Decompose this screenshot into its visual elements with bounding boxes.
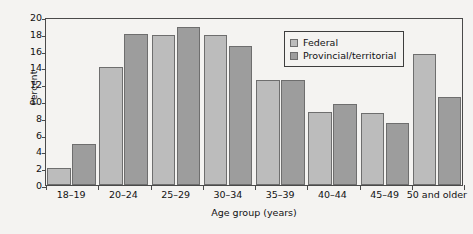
bar-provincial <box>333 104 357 185</box>
legend-swatch-provincial-icon <box>290 52 298 60</box>
bar-provincial <box>281 80 305 185</box>
plot-area: Federal Provincial/territorial <box>45 18 463 186</box>
y-axis-tick-label: 20 <box>20 13 42 23</box>
bar-group <box>151 19 203 185</box>
bar-provincial <box>438 97 462 185</box>
bar-group <box>412 19 464 185</box>
legend-label-provincial: Provincial/territorial <box>303 51 396 61</box>
bar-provincial <box>229 46 253 185</box>
bar-group <box>203 19 255 185</box>
legend-swatch-federal-icon <box>290 39 298 47</box>
y-axis-tick-mark <box>42 69 47 70</box>
bar-federal <box>152 35 176 185</box>
y-axis-tick-labels: 02468101214161820 <box>20 18 42 186</box>
bar-federal <box>308 112 332 185</box>
x-axis-tick-label: 20–24 <box>109 190 138 200</box>
bar-provincial <box>124 34 148 185</box>
legend-label-federal: Federal <box>303 38 338 48</box>
legend-item-federal: Federal <box>290 36 396 49</box>
x-axis-tick-label: 40–44 <box>318 190 347 200</box>
bar-group <box>98 19 150 185</box>
y-axis-tick-label: 18 <box>20 30 42 40</box>
bar-group <box>46 19 98 185</box>
x-axis-tick-label: 50 and older <box>407 190 467 200</box>
y-axis-tick-mark <box>42 19 47 20</box>
bar-federal <box>413 54 437 185</box>
bar-federal <box>99 67 123 185</box>
bar-federal <box>47 168 71 185</box>
x-axis-tick-label: 45–49 <box>370 190 399 200</box>
bar-provincial <box>177 27 201 185</box>
bar-federal <box>256 80 280 185</box>
y-axis-tick-label: 0 <box>20 181 42 191</box>
y-axis-tick-label: 4 <box>20 148 42 158</box>
y-axis-tick-label: 6 <box>20 131 42 141</box>
y-axis-tick-label: 14 <box>20 64 42 74</box>
legend-item-provincial: Provincial/territorial <box>290 49 396 62</box>
x-axis-tick-label: 18–19 <box>57 190 86 200</box>
y-axis-tick-label: 2 <box>20 164 42 174</box>
y-axis-tick-mark <box>42 120 47 121</box>
y-axis-tick-label: 12 <box>20 80 42 90</box>
y-axis-tick-mark <box>42 53 47 54</box>
x-axis-tick-label: 30–34 <box>213 190 242 200</box>
x-axis-tick-label: 25–29 <box>161 190 190 200</box>
y-axis-tick-mark <box>42 36 47 37</box>
x-axis-title: Age group (years) <box>45 207 463 218</box>
y-axis-tick-mark <box>42 137 47 138</box>
y-axis-tick-label: 16 <box>20 47 42 57</box>
bar-federal <box>204 35 228 185</box>
y-axis-tick-mark <box>42 170 47 171</box>
bar-provincial <box>72 144 96 185</box>
y-axis-tick-label: 8 <box>20 114 42 124</box>
y-axis-tick-mark <box>42 153 47 154</box>
bar-federal <box>361 113 385 185</box>
bar-provincial <box>386 123 410 185</box>
x-axis-tick-labels: 18–1920–2425–2930–3435–3940–4445–4950 an… <box>45 190 463 204</box>
y-axis-tick-label: 10 <box>20 97 42 107</box>
bar-chart-figure: Percent 02468101214161820 Federal Provin… <box>0 0 473 234</box>
chart-legend: Federal Provincial/territorial <box>284 31 404 67</box>
y-axis-tick-mark <box>42 86 47 87</box>
y-axis-tick-mark <box>42 103 47 104</box>
x-axis-tick-label: 35–39 <box>266 190 295 200</box>
